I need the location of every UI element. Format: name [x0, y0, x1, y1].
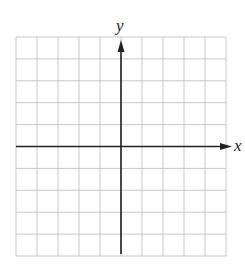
x-axis-label: x — [233, 136, 242, 155]
coordinate-plane: x y — [0, 0, 245, 267]
y-axis-arrow-icon — [118, 40, 125, 52]
y-axis-label: y — [114, 16, 124, 35]
